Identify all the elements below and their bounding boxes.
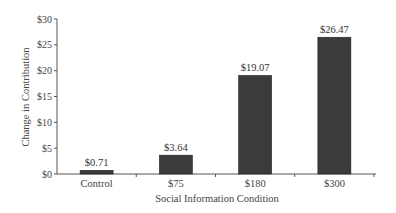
bar-value-label: $19.07 [241,62,270,73]
x-axis [57,174,376,177]
x-category-label: $180 [245,178,266,189]
x-axis-title: Social Information Condition [155,193,279,204]
y-tick-label: $30 [37,14,52,25]
y-tick-label: $20 [37,65,52,76]
bar [80,170,113,174]
bars: $0.71Control$3.64$75$19.07$180$26.47$300 [80,24,351,189]
bar [239,75,272,174]
y-tick-label: $5 [42,143,52,154]
bar-value-label: $3.64 [164,142,188,153]
x-category-label: Control [81,178,113,189]
bar [318,37,351,174]
y-tick-label: $10 [37,117,52,128]
y-axis: $0$5$10$15$20$25$30 [37,14,57,180]
y-tick-label: $0 [42,169,52,180]
bar-value-label: $26.47 [320,24,349,35]
y-axis-title: Change in Contribution [20,47,31,147]
bar-chart: $0$5$10$15$20$25$30 $0.71Control$3.64$75… [0,0,396,213]
y-tick-label: $15 [37,91,52,102]
x-category-label: $75 [168,178,184,189]
x-category-label: $300 [324,178,345,189]
bar [159,155,192,174]
y-tick-label: $25 [37,39,52,50]
bar-value-label: $0.71 [85,157,109,168]
